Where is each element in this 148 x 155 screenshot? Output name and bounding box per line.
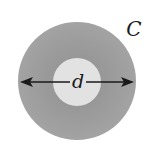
annulus-diagram: d C (0, 0, 148, 155)
circle-label: C (126, 17, 141, 41)
dimension-label: d (72, 70, 84, 92)
